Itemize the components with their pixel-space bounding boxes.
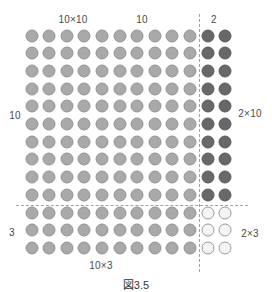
dot-10x10	[25, 100, 38, 113]
dot-10x10	[131, 153, 144, 166]
dot-10x10	[60, 100, 73, 113]
dot-10x3	[183, 241, 196, 254]
dot-10x10	[131, 135, 144, 148]
dot-10x10	[95, 171, 108, 184]
dot-10x10	[95, 47, 108, 60]
dot-10x10	[131, 82, 144, 95]
dot-10x10	[148, 29, 161, 42]
dot-10x10	[60, 82, 73, 95]
dot-10x10	[183, 188, 196, 201]
dot-10x10	[60, 171, 73, 184]
dot-10x10	[95, 29, 108, 42]
dot-2x10	[201, 47, 214, 60]
figure-caption: 図3.5	[123, 276, 149, 292]
dot-10x10	[78, 29, 91, 42]
dot-2x10	[219, 82, 232, 95]
dot-10x10	[113, 171, 126, 184]
dot-10x10	[148, 135, 161, 148]
dot-2x10	[219, 64, 232, 77]
dot-10x3	[113, 241, 126, 254]
dot-10x10	[113, 29, 126, 42]
dot-10x10	[25, 135, 38, 148]
dot-10x10	[113, 100, 126, 113]
dot-2x10	[201, 82, 214, 95]
dot-2x3	[219, 241, 232, 254]
label-2x10: 2×10	[238, 108, 261, 119]
dot-10x3	[78, 224, 91, 237]
dot-2x3	[201, 224, 214, 237]
dot-10x3	[25, 206, 38, 219]
dot-10x10	[148, 100, 161, 113]
dot-10x10	[43, 171, 56, 184]
dot-2x10	[201, 29, 214, 42]
dot-10x10	[166, 188, 179, 201]
dot-10x10	[25, 64, 38, 77]
dot-10x10	[78, 135, 91, 148]
dot-10x10	[183, 29, 196, 42]
dot-10x3	[95, 206, 108, 219]
dot-10x10	[131, 171, 144, 184]
dot-10x10	[166, 82, 179, 95]
dot-10x10	[25, 153, 38, 166]
dot-10x10	[183, 82, 196, 95]
dot-10x10	[183, 135, 196, 148]
dot-10x10	[148, 188, 161, 201]
dot-10x10	[113, 64, 126, 77]
dot-10x3	[60, 224, 73, 237]
dot-10x10	[60, 47, 73, 60]
dot-10x3	[95, 224, 108, 237]
dot-10x3	[43, 241, 56, 254]
dot-2x10	[219, 100, 232, 113]
dot-2x10	[201, 188, 214, 201]
dot-10x10	[113, 82, 126, 95]
dot-10x3	[95, 241, 108, 254]
dot-10x10	[166, 47, 179, 60]
dot-10x3	[148, 224, 161, 237]
dot-10x10	[43, 118, 56, 131]
dot-10x10	[43, 64, 56, 77]
dot-10x10	[60, 188, 73, 201]
dot-10x10	[166, 64, 179, 77]
dot-10x10	[113, 135, 126, 148]
dot-10x10	[95, 135, 108, 148]
dot-10x10	[25, 171, 38, 184]
dot-2x10	[201, 64, 214, 77]
dot-10x3	[60, 241, 73, 254]
dot-10x3	[183, 206, 196, 219]
dot-10x10	[78, 118, 91, 131]
dot-10x10	[166, 135, 179, 148]
dot-10x3	[166, 206, 179, 219]
label-left-3: 3	[9, 227, 15, 238]
dot-10x10	[148, 153, 161, 166]
dot-10x3	[43, 224, 56, 237]
label-2x3: 2×3	[241, 228, 259, 239]
dot-10x10	[148, 118, 161, 131]
dot-10x3	[25, 241, 38, 254]
dot-10x10	[113, 47, 126, 60]
dot-2x10	[201, 171, 214, 184]
dot-10x10	[131, 47, 144, 60]
dot-10x10	[95, 188, 108, 201]
label-10x3: 10×3	[89, 260, 112, 271]
dot-10x10	[60, 135, 73, 148]
dot-2x10	[219, 29, 232, 42]
dot-2x10	[219, 171, 232, 184]
dot-10x3	[131, 241, 144, 254]
dot-10x10	[148, 47, 161, 60]
dot-10x10	[148, 82, 161, 95]
dot-10x10	[166, 153, 179, 166]
dot-10x10	[43, 153, 56, 166]
dot-10x10	[43, 29, 56, 42]
label-top-2: 2	[211, 14, 217, 25]
dot-10x3	[148, 241, 161, 254]
label-10x10: 10×10	[58, 14, 87, 25]
dot-10x10	[78, 100, 91, 113]
dot-10x10	[60, 118, 73, 131]
dot-10x10	[78, 82, 91, 95]
dot-10x3	[166, 241, 179, 254]
dot-10x10	[113, 153, 126, 166]
dot-2x3	[201, 241, 214, 254]
dot-10x10	[183, 118, 196, 131]
dot-10x10	[95, 100, 108, 113]
dot-10x3	[60, 206, 73, 219]
